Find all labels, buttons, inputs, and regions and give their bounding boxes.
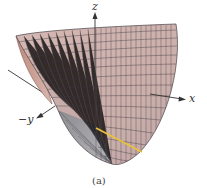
surface-mesh: [0, 0, 207, 188]
surface-figure: [0, 0, 207, 188]
figure-caption: (a): [92, 176, 106, 186]
z-axis-label: z: [92, 1, 98, 12]
neg-y-axis: [36, 106, 55, 119]
neg-y-axis-label: −y: [18, 114, 33, 125]
x-axis-label: x: [189, 93, 195, 104]
